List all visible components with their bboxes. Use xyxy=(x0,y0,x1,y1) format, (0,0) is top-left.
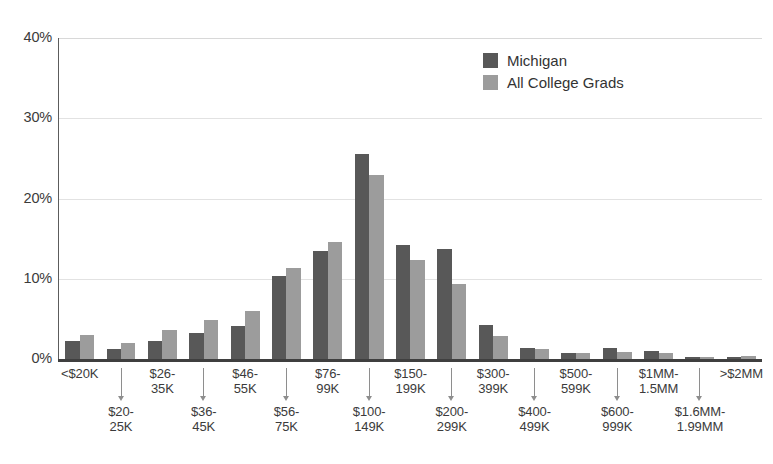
legend-item-label: All College Grads xyxy=(507,75,624,90)
x-tick-label: $76- 99K xyxy=(296,366,360,396)
x-tick-label: $100- 149K xyxy=(337,404,401,434)
bar xyxy=(245,311,259,359)
legend-swatch-icon xyxy=(483,53,498,68)
bar xyxy=(452,284,466,359)
bar xyxy=(437,249,451,359)
legend-item[interactable]: All College Grads xyxy=(483,75,624,90)
y-tick-label-40: 40% xyxy=(4,29,52,45)
bar xyxy=(396,245,410,359)
x-tick-label: $1.6MM- 1.99MM xyxy=(668,404,732,434)
x-tick-arrow-icon xyxy=(365,368,374,402)
x-tick-label: $56- 75K xyxy=(254,404,318,434)
chart-legend: MichiganAll College Grads xyxy=(483,53,624,90)
x-tick-label: $500- 599K xyxy=(544,366,608,396)
bar-group xyxy=(107,38,136,359)
y-tick-label-0: 0% xyxy=(4,350,52,366)
bar-group xyxy=(189,38,218,359)
bar xyxy=(535,349,549,359)
y-tick-label-20: 20% xyxy=(4,190,52,206)
bar xyxy=(617,352,631,359)
bar xyxy=(355,154,369,359)
bar-group xyxy=(148,38,177,359)
bar xyxy=(603,348,617,359)
bar xyxy=(231,326,245,359)
x-tick-arrow-icon xyxy=(613,368,622,402)
bar xyxy=(107,349,121,359)
bar-group xyxy=(65,38,94,359)
x-tick-arrow-icon xyxy=(447,368,456,402)
bar xyxy=(313,251,327,359)
y-tick-label-10: 10% xyxy=(4,270,52,286)
bar xyxy=(520,348,534,359)
x-tick-label: >$2MM xyxy=(709,366,773,381)
x-tick-label: <$20K xyxy=(48,366,112,381)
x-tick-label: $36- 45K xyxy=(172,404,236,434)
x-tick-label: $150- 199K xyxy=(379,366,443,396)
bar-group xyxy=(313,38,342,359)
bar-group xyxy=(685,38,714,359)
bar xyxy=(644,351,658,359)
bar xyxy=(162,330,176,359)
x-tick-arrow-icon xyxy=(117,368,126,402)
y-axis-ticks: 0%10%20%30%40% xyxy=(0,0,52,464)
bar xyxy=(148,341,162,359)
x-tick-label: $400- 499K xyxy=(503,404,567,434)
x-tick-arrow-icon xyxy=(282,368,291,402)
bar-group xyxy=(231,38,260,359)
y-tick-label-30: 30% xyxy=(4,109,52,125)
legend-swatch-icon xyxy=(483,75,498,90)
bar-group xyxy=(644,38,673,359)
legend-item[interactable]: Michigan xyxy=(483,53,624,68)
bar xyxy=(479,325,493,360)
bar xyxy=(65,341,79,359)
x-tick-label: $200- 299K xyxy=(420,404,484,434)
x-tick-label: $600- 999K xyxy=(585,404,649,434)
x-tick-label: $1MM- 1.5MM xyxy=(627,366,691,396)
x-axis-line xyxy=(58,359,762,362)
x-tick-arrow-icon xyxy=(530,368,539,402)
x-tick-label: $20- 25K xyxy=(89,404,153,434)
bar xyxy=(80,335,94,359)
x-tick-label: $46- 55K xyxy=(213,366,277,396)
bar-group xyxy=(396,38,425,359)
x-tick-arrow-icon xyxy=(695,368,704,402)
bar xyxy=(369,175,383,359)
bar xyxy=(328,242,342,359)
x-tick-label: $26- 35K xyxy=(130,366,194,396)
x-axis-labels: <$20K$20- 25K$26- 35K$36- 45K$46- 55K$56… xyxy=(59,363,762,464)
x-tick-arrow-icon xyxy=(199,368,208,402)
bar xyxy=(493,336,507,359)
bar xyxy=(121,343,135,359)
bar-group xyxy=(272,38,301,359)
bar xyxy=(272,276,286,359)
bars-layer xyxy=(59,38,762,359)
bar xyxy=(189,333,203,359)
legend-item-label: Michigan xyxy=(507,53,567,68)
bar-group xyxy=(727,38,756,359)
bar-group xyxy=(355,38,384,359)
bar xyxy=(204,320,218,359)
bar xyxy=(410,260,424,360)
bar xyxy=(286,268,300,359)
x-tick-label: $300- 399K xyxy=(461,366,525,396)
bar-chart: 0%10%20%30%40% MichiganAll College Grads… xyxy=(0,0,773,464)
bar-group xyxy=(437,38,466,359)
